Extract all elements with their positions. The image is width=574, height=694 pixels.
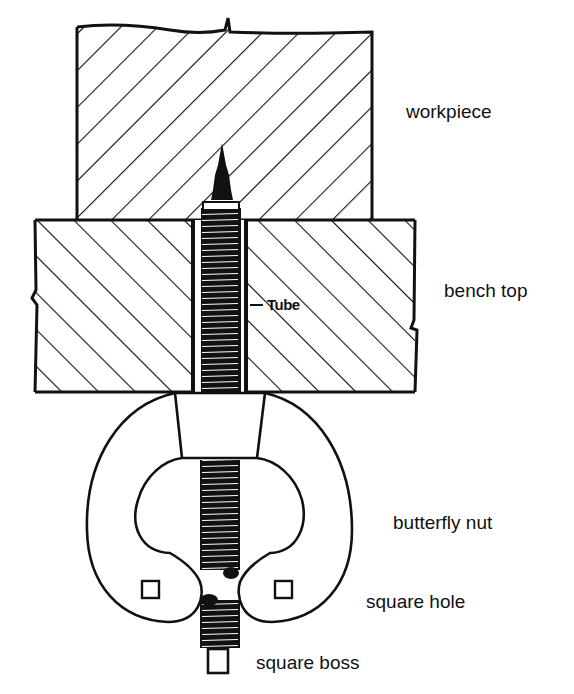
square-hole-right	[275, 581, 292, 598]
square-boss	[208, 649, 228, 673]
label-bench-top: bench top	[444, 280, 527, 302]
square-hole-left	[142, 581, 159, 598]
label-square-hole: square hole	[366, 591, 465, 613]
label-tube: Tube	[267, 296, 300, 313]
label-square-boss: square boss	[256, 652, 360, 674]
label-workpiece: workpiece	[406, 101, 492, 123]
label-butterfly-nut: butterfly nut	[393, 512, 492, 534]
lower-screw	[200, 460, 240, 648]
